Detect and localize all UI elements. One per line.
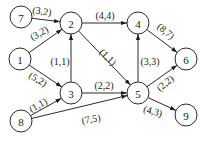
node-label: 8 xyxy=(18,116,24,128)
edge-label: (3,2) xyxy=(32,4,53,19)
node-2: 2 xyxy=(60,12,82,34)
edge-label: (1,1) xyxy=(97,46,119,68)
edge-label: (5,2) xyxy=(26,69,49,89)
edge-label: (2,2) xyxy=(154,73,176,95)
edges-layer xyxy=(29,18,177,118)
edge-label: (3,3) xyxy=(140,56,159,68)
edge-label: (4,3) xyxy=(142,103,164,120)
edge-label: (2,2) xyxy=(94,80,113,92)
node-label: 5 xyxy=(135,88,141,100)
node-label: 9 xyxy=(183,110,189,122)
node-label: 6 xyxy=(183,54,189,66)
edge-label: (8,7) xyxy=(154,21,176,43)
edge-label: (1,1) xyxy=(27,95,50,115)
node-8: 8 xyxy=(10,110,32,132)
edge-label: (7,5) xyxy=(81,112,102,127)
node-1: 1 xyxy=(9,48,31,70)
edge-label: (4,4) xyxy=(95,10,114,22)
node-label: 4 xyxy=(135,18,141,30)
edge-7-to-2 xyxy=(32,18,60,21)
node-6: 6 xyxy=(175,48,197,70)
node-label: 1 xyxy=(17,54,23,66)
network-diagram: (3,2)(3,2)(5,2)(1,1)(4,4)(1,1)(8,7)(2,2)… xyxy=(0,0,207,142)
edge-label: (1,1) xyxy=(50,56,69,68)
node-3: 3 xyxy=(60,82,82,104)
node-9: 9 xyxy=(175,104,197,126)
node-4: 4 xyxy=(127,12,149,34)
node-5: 5 xyxy=(127,82,149,104)
node-label: 3 xyxy=(68,88,74,100)
node-label: 2 xyxy=(68,18,74,30)
node-label: 7 xyxy=(18,12,24,24)
arrow-icon xyxy=(32,18,60,21)
node-7: 7 xyxy=(10,6,32,28)
